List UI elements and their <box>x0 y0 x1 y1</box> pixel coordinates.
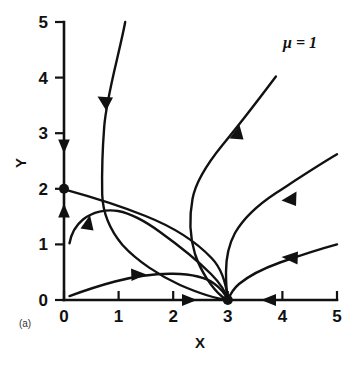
x-axis-tick-labels: 0 1 2 3 4 5 <box>59 307 341 326</box>
fixed-points-group <box>59 184 233 305</box>
x-axis-arrow-right-icon <box>182 294 197 306</box>
x-tick-label-4: 4 <box>278 307 288 326</box>
y-tick-label-0: 0 <box>39 291 48 310</box>
x-axis-arrow-left-icon <box>261 294 276 306</box>
trajectory-from-saddle-to-node <box>66 190 228 299</box>
parameter-annotation: μ = 1 <box>282 34 317 52</box>
x-axis-label: X <box>195 334 205 351</box>
y-axis-arrow-up-icon <box>58 204 70 218</box>
panel-label: (a) <box>19 318 31 329</box>
y-axis-ticks <box>55 22 64 300</box>
y-axis-arrow-down-icon <box>58 140 70 154</box>
fixed-point-stable-node-3-0 <box>223 295 233 305</box>
x-tick-label-2: 2 <box>168 307 177 326</box>
x-tick-label-3: 3 <box>223 307 232 326</box>
x-tick-label-0: 0 <box>59 307 68 326</box>
y-tick-label-1: 1 <box>39 235 48 254</box>
y-tick-label-5: 5 <box>39 13 48 32</box>
trajectory-arrow-right-upper-icon <box>282 192 297 207</box>
x-tick-label-5: 5 <box>332 307 341 326</box>
x-tick-label-1: 1 <box>114 307 123 326</box>
trajectory-arrow-right-lower-icon <box>282 252 299 265</box>
trajectory-arrow-top-left-icon <box>98 97 114 111</box>
y-axis-tick-labels: 0 1 2 3 4 5 <box>39 13 49 310</box>
trajectory-from-right-upper <box>226 154 337 300</box>
trajectory-arrow-lower-left-icon <box>131 269 147 282</box>
trajectory-lower-left-to-node <box>70 274 228 300</box>
y-axis-label: Y <box>12 158 29 168</box>
fixed-point-saddle-0-2 <box>59 184 69 194</box>
phase-portrait-figure: 0 1 2 3 4 5 0 1 2 3 4 5 X Y μ = 1 (a) <box>0 0 360 367</box>
trajectory-to-saddle-from-below <box>70 210 229 300</box>
y-tick-label-3: 3 <box>39 124 48 143</box>
y-tick-label-4: 4 <box>39 69 49 88</box>
y-tick-label-2: 2 <box>39 180 48 199</box>
phase-portrait-svg: 0 1 2 3 4 5 0 1 2 3 4 5 X Y μ = 1 (a) <box>0 0 360 367</box>
